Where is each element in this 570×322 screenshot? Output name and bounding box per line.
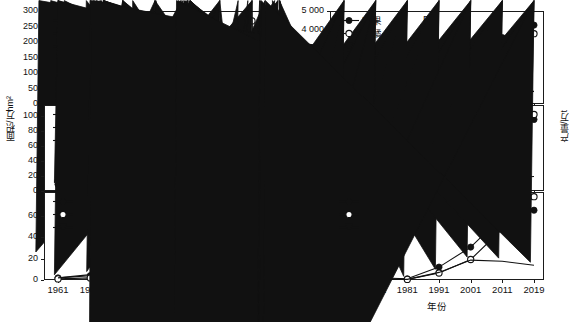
legend-marker-filled-triangle-down-icon [338, 222, 360, 233]
legend-label: 柑橘 [76, 28, 96, 39]
legend-item[interactable]: 柑橘 [52, 27, 96, 40]
y-tick-mark [327, 173, 330, 174]
y-tick-mark [41, 280, 44, 281]
y-tick-label: 2 000 [282, 62, 324, 71]
y-tick-mark [41, 146, 44, 147]
y-tick-mark [41, 161, 44, 162]
x-tick-mark [376, 280, 377, 283]
y-tick-label: 300 [0, 6, 38, 15]
y-tick-label: 5 000 [282, 6, 324, 15]
y-tick-label: 100 [0, 68, 38, 77]
legend-label: 苹果 [362, 15, 382, 26]
legend-label: 李 [362, 41, 372, 52]
x-tick-mark [344, 280, 345, 283]
x-tick-label: 2001 [455, 285, 487, 295]
x-tick-mark [502, 280, 503, 283]
legend-marker-filled-circle-icon [338, 15, 360, 26]
x-tick-label: 1971 [360, 285, 392, 295]
legend-label: 香蕉 [76, 196, 96, 207]
y-tick-label: 800 [282, 150, 324, 159]
y-tick-mark [327, 233, 330, 234]
y-tick-label: 0 [0, 99, 38, 108]
x-tick-mark [58, 280, 59, 283]
legend-label: 苹果 [76, 15, 96, 26]
legend-marker-open-circle-icon [338, 209, 360, 220]
x-tick-label: 2011 [204, 285, 236, 295]
x-tick-mark [439, 280, 440, 283]
legend-item[interactable]: 香蕉 [338, 195, 382, 208]
y-tick-mark [327, 67, 330, 68]
legend-item[interactable]: 梨 [52, 121, 86, 134]
y-tick-mark [327, 210, 330, 211]
legend-item[interactable]: 葡萄 [338, 208, 382, 221]
y-tick-mark [327, 11, 330, 12]
y-tick-label: 20 [0, 171, 38, 180]
legend-item[interactable]: 李 [52, 40, 96, 53]
legend-a2: 桃梨柿 [52, 108, 86, 147]
legend-item[interactable]: 桃 [52, 108, 86, 121]
y-tick-label: 1 200 [282, 132, 324, 141]
x-tick-mark [155, 280, 156, 283]
legend-item[interactable]: 柿 [52, 134, 86, 147]
y-tick-label: 0 [0, 275, 38, 284]
legend-item[interactable]: 梨 [338, 121, 372, 134]
legend-label: 芒果 [362, 222, 382, 233]
legend-marker-filled-triangle-down-icon [338, 135, 360, 146]
y-tick-mark [41, 42, 44, 43]
legend-item[interactable]: 苹果 [52, 14, 96, 27]
y-tick-label: 60 [0, 211, 38, 220]
y-tick-mark [41, 259, 44, 260]
x-tick-mark [534, 280, 535, 283]
y-axis-title-b: 产量/万t [557, 110, 570, 142]
x-tick-label: 2011 [486, 285, 518, 295]
x-tick-mark [407, 280, 408, 283]
y-tick-mark [41, 216, 44, 217]
x-axis-b-title: 年份 [377, 299, 497, 313]
legend-a1: 苹果柑橘李 [52, 14, 96, 53]
legend-marker-filled-circle-icon [52, 15, 74, 26]
y-tick-label: 150 [0, 53, 38, 62]
y-tick-label: 20 [0, 254, 38, 263]
legend-b3: 香蕉葡萄芒果 [338, 195, 382, 234]
legend-label: 柿 [362, 135, 372, 146]
legend-item[interactable]: 李 [338, 40, 382, 53]
legend-label: 香蕉 [362, 196, 382, 207]
legend-b2: 桃梨柿 [338, 108, 372, 147]
y-tick-mark [327, 155, 330, 156]
legend-label: 芒果 [76, 222, 96, 233]
y-tick-label: 40 [0, 232, 38, 241]
legend-item[interactable]: 香蕉 [52, 195, 96, 208]
x-tick-label: 1981 [107, 285, 139, 295]
y-tick-mark [41, 58, 44, 59]
legend-label: 桃 [76, 109, 86, 120]
x-tick-mark [123, 280, 124, 283]
y-tick-label: 0 [282, 275, 324, 284]
legend-marker-filled-triangle-down-icon [52, 41, 74, 52]
y-tick-label: 1 600 [282, 114, 324, 123]
y-tick-mark [41, 176, 44, 177]
x-tick-mark [187, 280, 188, 283]
y-tick-mark [327, 257, 330, 258]
legend-label: 葡萄 [362, 209, 382, 220]
legend-item[interactable]: 葡萄 [52, 208, 96, 221]
x-tick-label: 1961 [328, 285, 360, 295]
legend-item[interactable]: 柿 [338, 134, 372, 147]
y-tick-label: 400 [282, 168, 324, 177]
legend-label: 柑橘 [362, 28, 382, 39]
legend-label: 柿 [76, 135, 86, 146]
panel-letter-b: B [423, 15, 430, 26]
legend-item[interactable]: 芒果 [52, 221, 96, 234]
y-tick-label: 4 000 [282, 25, 324, 34]
x-tick-label: 1991 [139, 285, 171, 295]
legend-item[interactable]: 苹果 [338, 14, 382, 27]
x-tick-mark [220, 280, 221, 283]
legend-label: 梨 [362, 122, 372, 133]
legend-item[interactable]: 芒果 [338, 221, 382, 234]
x-tick-mark [252, 280, 253, 283]
y-tick-label: 50 [0, 84, 38, 93]
legend-marker-filled-triangle-down-icon [52, 135, 74, 146]
legend-item[interactable]: 桃 [338, 108, 372, 121]
legend-item[interactable]: 柑橘 [338, 27, 382, 40]
legend-marker-open-circle-icon [52, 122, 74, 133]
y-tick-label: 40 [0, 156, 38, 165]
